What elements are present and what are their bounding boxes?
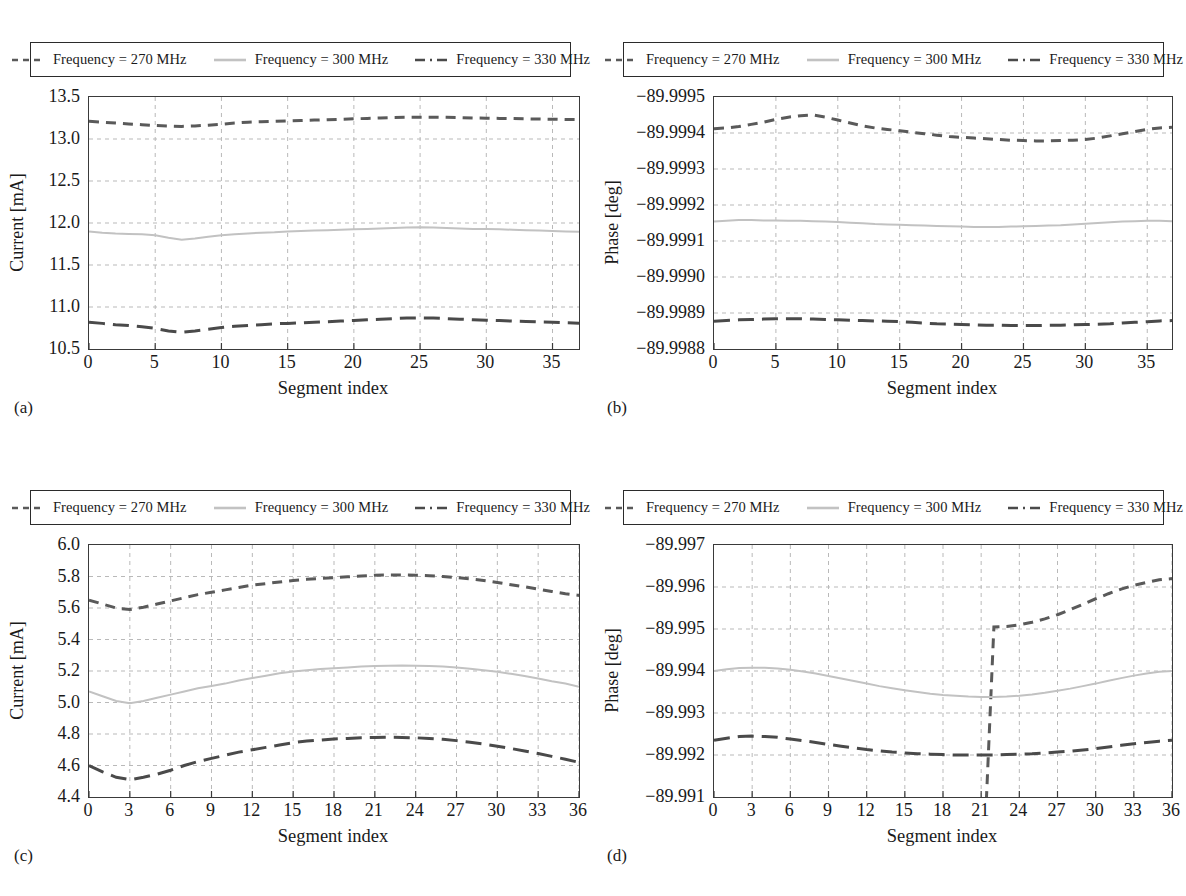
x-tick-label: 6 — [165, 800, 174, 821]
legend-entry-3[interactable]: Frequency = 330 MHz — [1007, 51, 1183, 68]
legend-entry-3[interactable]: Frequency = 330 MHz — [414, 51, 590, 68]
y-tick-label: −89.9995 — [636, 86, 705, 107]
legend-entry-1[interactable]: Frequency = 270 MHz — [11, 499, 187, 516]
legend-panel-b: Frequency = 270 MHzFrequency = 300 MHzFr… — [623, 42, 1164, 77]
y-tick-label: −89.993 — [645, 702, 705, 723]
plot-area-d: Phase [deg] −89.991−89.992−89.993−89.994… — [593, 544, 1186, 844]
legend-label: Frequency = 330 MHz — [1049, 499, 1183, 516]
legend-label: Frequency = 270 MHz — [646, 51, 780, 68]
legend-entry-2[interactable]: Frequency = 300 MHz — [213, 51, 389, 68]
chart-canvas-d — [714, 545, 1172, 797]
series-line-1 — [89, 117, 579, 126]
plot-area-c: Current [mA] 4.44.64.85.05.25.45.65.86.0… — [0, 544, 593, 844]
x-axis-label-a: Segment index — [88, 378, 578, 399]
y-tick-label: −89.994 — [645, 660, 705, 681]
panel-d: Frequency = 270 MHzFrequency = 300 MHzFr… — [593, 448, 1186, 896]
x-axis-label-c: Segment index — [88, 826, 578, 847]
y-tick-label: −89.996 — [645, 576, 705, 597]
x-tick-label: 20 — [344, 352, 362, 373]
y-tick-label: 6.0 — [58, 534, 81, 555]
x-tick-labels-d: 0369121518212427303336 — [713, 798, 1171, 824]
x-tick-label: 10 — [828, 352, 846, 373]
x-tick-label: 27 — [1048, 800, 1066, 821]
x-tick-label: 0 — [709, 352, 718, 373]
legend-line-swatch-dashdot — [1007, 502, 1041, 514]
x-tick-label: 15 — [895, 800, 913, 821]
axes-d — [713, 544, 1173, 798]
axes-b — [713, 96, 1173, 350]
x-tick-label: 6 — [785, 800, 794, 821]
legend-label: Frequency = 330 MHz — [1049, 51, 1183, 68]
x-tick-labels-b: 05101520253035 — [713, 350, 1171, 376]
x-tick-label: 25 — [1013, 352, 1031, 373]
series-line-3 — [714, 319, 1172, 326]
y-tick-label: −89.9989 — [636, 302, 705, 323]
figure-four-panel-plot: Frequency = 270 MHzFrequency = 300 MHzFr… — [0, 0, 1186, 896]
y-tick-label: 13.5 — [49, 86, 81, 107]
legend-panel-c: Frequency = 270 MHzFrequency = 300 MHzFr… — [30, 490, 571, 525]
legend-entry-2[interactable]: Frequency = 300 MHz — [213, 499, 389, 516]
legend-label: Frequency = 300 MHz — [848, 499, 982, 516]
legend-line-swatch-dashed — [604, 54, 638, 66]
x-tick-label: 25 — [410, 352, 428, 373]
y-tick-label: −89.9994 — [636, 122, 705, 143]
x-axis-label-b: Segment index — [713, 378, 1171, 399]
x-tick-label: 36 — [569, 800, 587, 821]
legend-entry-1[interactable]: Frequency = 270 MHz — [604, 499, 780, 516]
legend-line-swatch-dashdot — [1007, 54, 1041, 66]
x-tick-label: 24 — [406, 800, 424, 821]
y-tick-label: −89.9992 — [636, 194, 705, 215]
legend-entry-1[interactable]: Frequency = 270 MHz — [604, 51, 780, 68]
x-tick-label: 33 — [1124, 800, 1142, 821]
x-tick-label: 5 — [770, 352, 779, 373]
y-tick-label: −89.997 — [645, 534, 705, 555]
y-tick-label: 5.8 — [58, 565, 81, 586]
legend-line-swatch-solid — [806, 502, 840, 514]
x-tick-label: 0 — [84, 352, 93, 373]
y-tick-label: 10.5 — [49, 338, 81, 359]
legend-entry-3[interactable]: Frequency = 330 MHz — [414, 499, 590, 516]
y-tick-label: 12.0 — [49, 212, 81, 233]
y-tick-label: 4.6 — [58, 754, 81, 775]
panel-c: Frequency = 270 MHzFrequency = 300 MHzFr… — [0, 448, 593, 896]
legend-entry-2[interactable]: Frequency = 300 MHz — [806, 51, 982, 68]
x-tick-label: 12 — [857, 800, 875, 821]
x-tick-label: 12 — [242, 800, 260, 821]
y-tick-label: −89.9988 — [636, 338, 705, 359]
legend-label: Frequency = 300 MHz — [848, 51, 982, 68]
x-tick-label: 20 — [952, 352, 970, 373]
x-tick-label: 5 — [150, 352, 159, 373]
x-tick-label: 21 — [971, 800, 989, 821]
x-tick-label: 18 — [324, 800, 342, 821]
series-line-2 — [714, 220, 1172, 227]
x-tick-label: 30 — [476, 352, 494, 373]
y-tick-label: 5.0 — [58, 691, 81, 712]
y-tick-label: −89.992 — [645, 744, 705, 765]
chart-canvas-b — [714, 97, 1172, 349]
y-tick-label: −89.9991 — [636, 230, 705, 251]
x-tick-label: 15 — [283, 800, 301, 821]
y-tick-labels-d: −89.991−89.992−89.993−89.994−89.995−89.9… — [593, 544, 711, 796]
x-tick-label: 0 — [709, 800, 718, 821]
legend-entry-3[interactable]: Frequency = 330 MHz — [1007, 499, 1183, 516]
legend-label: Frequency = 270 MHz — [53, 51, 187, 68]
plot-area-b: Phase [deg] −89.9988−89.9989−89.9990−89.… — [593, 96, 1186, 396]
legend-entry-1[interactable]: Frequency = 270 MHz — [11, 51, 187, 68]
legend-line-swatch-dashdot — [414, 54, 448, 66]
legend-entry-2[interactable]: Frequency = 300 MHz — [806, 499, 982, 516]
panel-label-b: (b) — [607, 398, 627, 418]
y-tick-labels-c: 4.44.64.85.05.25.45.65.86.0 — [0, 544, 86, 796]
y-tick-label: 12.5 — [49, 170, 81, 191]
x-tick-label: 36 — [1162, 800, 1180, 821]
x-tick-label: 30 — [1086, 800, 1104, 821]
legend-label: Frequency = 330 MHz — [456, 51, 590, 68]
x-tick-label: 30 — [487, 800, 505, 821]
legend-line-swatch-dashed — [11, 502, 45, 514]
legend-line-swatch-dashed — [604, 502, 638, 514]
y-tick-labels-a: 10.511.011.512.012.513.013.5 — [0, 96, 86, 348]
legend-line-swatch-solid — [213, 54, 247, 66]
legend-line-swatch-dashed — [11, 54, 45, 66]
legend-label: Frequency = 300 MHz — [255, 499, 389, 516]
y-tick-labels-b: −89.9988−89.9989−89.9990−89.9991−89.9992… — [593, 96, 711, 348]
y-tick-label: −89.9993 — [636, 158, 705, 179]
